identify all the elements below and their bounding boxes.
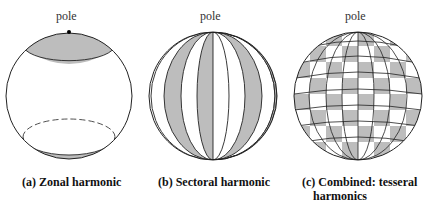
caption-line2: harmonics (313, 189, 367, 203)
caption: (b) Sectoral harmonic (158, 175, 271, 189)
caption: (a) Zonal harmonic (22, 175, 122, 189)
sectoral-harmonic-sphere: pole (b) Sectoral harmonic (149, 9, 277, 189)
pole-label: pole (345, 9, 366, 23)
pole-label: pole (56, 9, 77, 23)
spherical-harmonics-diagram: pole (a) Zonal harmonic pole (b) Sectora… (0, 0, 433, 207)
tesseral-harmonic-sphere: pole (290, 9, 430, 203)
zonal-harmonic-sphere: pole (a) Zonal harmonic (0, 0, 140, 189)
pole-dot (67, 30, 71, 34)
caption-line1: (c) Combined: tesseral (302, 175, 418, 189)
pole-label: pole (200, 9, 221, 23)
